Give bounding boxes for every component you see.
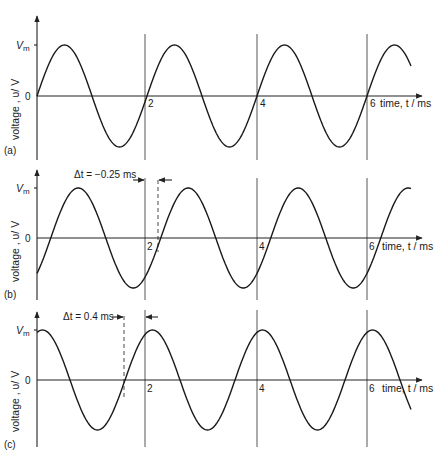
phase-shift-figure: Vm 0 2 4 6 time, t / ms voltage , υ/ V (… bbox=[0, 0, 434, 460]
tick-4: 4 bbox=[259, 383, 265, 394]
tick-2: 2 bbox=[147, 383, 153, 394]
tick-6: 6 bbox=[370, 98, 376, 109]
tick-4: 4 bbox=[260, 98, 266, 109]
panel-label-b: (b) bbox=[4, 289, 16, 300]
panel-a: Vm 0 2 4 6 time, t / ms voltage , υ/ V (… bbox=[4, 16, 431, 160]
delta-t-label: Δt = −0.25 ms bbox=[74, 169, 136, 180]
zero-label: 0 bbox=[25, 91, 31, 102]
delta-t-label: Δt = 0.4 ms bbox=[63, 311, 114, 322]
vm-label: Vm bbox=[16, 39, 30, 53]
tick-2: 2 bbox=[147, 241, 153, 252]
tick-6: 6 bbox=[369, 241, 375, 252]
tick-6: 6 bbox=[369, 383, 375, 394]
x-axis-label: time, t / ms bbox=[382, 240, 433, 252]
zero-label: 0 bbox=[25, 375, 31, 386]
vm-label: Vm bbox=[16, 182, 30, 196]
x-axis-label: time, t / ms bbox=[380, 97, 431, 109]
panel-label-c: (c) bbox=[4, 439, 16, 450]
tick-2: 2 bbox=[148, 98, 154, 109]
vm-label: Vm bbox=[16, 324, 30, 338]
panel-label-a: (a) bbox=[4, 145, 16, 156]
y-axis-label: voltage , υ/ V bbox=[9, 221, 21, 282]
y-axis-label: voltage , υ/ V bbox=[9, 371, 21, 432]
panel-b: Vm 0 2 4 6 time, t / ms voltage , υ/ V (… bbox=[4, 169, 433, 300]
panel-c: Vm 0 2 4 6 time, t / ms voltage , υ/ V (… bbox=[4, 310, 433, 450]
tick-4: 4 bbox=[259, 241, 265, 252]
x-axis-label: time, t / ms bbox=[382, 382, 433, 394]
zero-label: 0 bbox=[25, 233, 31, 244]
y-axis-label: voltage , υ/ V bbox=[9, 79, 21, 140]
